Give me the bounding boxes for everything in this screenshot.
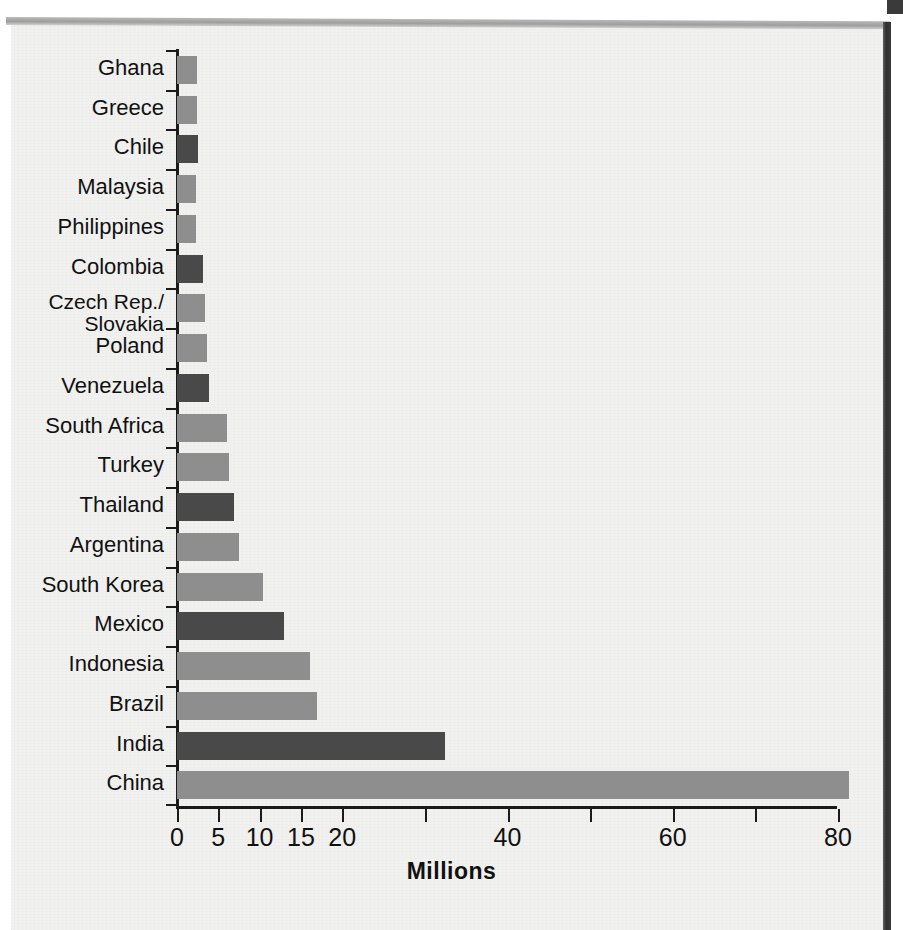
x-axis-tick xyxy=(425,809,427,822)
scanned-chart-page: GhanaGreeceChileMalaysiaPhilippinesColom… xyxy=(0,0,903,930)
bar xyxy=(177,414,227,442)
x-axis-tick-label: 20 xyxy=(328,823,356,852)
bar xyxy=(177,135,198,163)
bar-row xyxy=(177,726,857,766)
x-axis-line xyxy=(176,806,837,809)
bar xyxy=(177,96,197,124)
bar xyxy=(177,652,310,680)
bar xyxy=(177,334,207,362)
y-axis-label: Chile xyxy=(0,136,170,159)
y-axis-label: Venezuela xyxy=(0,375,170,398)
x-axis-tick xyxy=(218,809,220,822)
y-axis-label: Colombia xyxy=(0,256,170,279)
x-axis-tick-label: 60 xyxy=(659,823,687,852)
y-axis-tick xyxy=(166,646,177,648)
bar xyxy=(177,215,196,243)
y-axis-tick xyxy=(166,249,177,251)
plot-area xyxy=(177,50,857,805)
bar xyxy=(177,175,196,203)
x-axis-tick xyxy=(301,809,303,822)
x-axis-tick xyxy=(755,809,757,822)
y-axis-tick xyxy=(166,527,177,529)
horizontal-bar-chart: GhanaGreeceChileMalaysiaPhilippinesColom… xyxy=(0,0,903,930)
x-axis-title: Millions xyxy=(0,858,903,885)
y-axis-label: Brazil xyxy=(0,693,170,716)
y-axis-label: Ghana xyxy=(0,57,170,80)
x-axis-tick-label: 10 xyxy=(246,823,274,852)
bar-row xyxy=(177,686,857,726)
x-axis-tick xyxy=(838,809,840,822)
y-axis-label: China xyxy=(0,772,170,795)
bar xyxy=(177,732,445,760)
x-axis-tick xyxy=(177,809,179,822)
y-axis-tick xyxy=(166,804,177,806)
bar-row xyxy=(177,487,857,527)
y-axis-label: Malaysia xyxy=(0,176,170,199)
bar-row xyxy=(177,90,857,130)
x-axis-tick xyxy=(508,809,510,822)
bar xyxy=(177,493,234,521)
bar-row xyxy=(177,288,857,328)
y-axis-label: Thailand xyxy=(0,494,170,517)
bar-row xyxy=(177,567,857,607)
y-axis-tick xyxy=(166,765,177,767)
y-axis-label: Poland xyxy=(0,335,170,358)
bar-row xyxy=(177,606,857,646)
y-axis-label: South Korea xyxy=(0,574,170,597)
y-axis-label: Philippines xyxy=(0,216,170,239)
bar-row xyxy=(177,646,857,686)
bar xyxy=(177,771,849,799)
bar-row xyxy=(177,447,857,487)
bar-row xyxy=(177,50,857,90)
y-axis-label: South Africa xyxy=(0,415,170,438)
y-axis-label: Greece xyxy=(0,97,170,120)
x-axis-tick xyxy=(260,809,262,822)
y-axis-label: Czech Rep./Slovakia xyxy=(0,291,170,334)
x-axis-tick xyxy=(590,809,592,822)
y-axis-tick xyxy=(166,447,177,449)
bar-row xyxy=(177,328,857,368)
y-axis-label: India xyxy=(0,733,170,756)
bar-row xyxy=(177,249,857,289)
bar-row xyxy=(177,527,857,567)
y-axis-label: Argentina xyxy=(0,534,170,557)
bar xyxy=(177,294,205,322)
bar-row xyxy=(177,765,857,805)
y-axis-tick xyxy=(166,686,177,688)
x-axis-tick-label: 40 xyxy=(494,823,522,852)
bar xyxy=(177,374,209,402)
y-axis-tick xyxy=(166,209,177,211)
bar-row xyxy=(177,209,857,249)
y-axis-tick xyxy=(166,169,177,171)
y-axis-tick xyxy=(166,408,177,410)
x-axis-tick xyxy=(673,809,675,822)
y-axis-tick xyxy=(166,129,177,131)
x-axis-tick-label: 15 xyxy=(287,823,315,852)
bar xyxy=(177,255,203,283)
bar xyxy=(177,56,197,84)
x-axis-tick xyxy=(342,809,344,822)
y-axis-tick xyxy=(166,90,177,92)
bar xyxy=(177,612,284,640)
y-axis-label: Indonesia xyxy=(0,653,170,676)
y-axis-tick xyxy=(166,726,177,728)
bar-row xyxy=(177,129,857,169)
bar xyxy=(177,573,263,601)
y-axis-label: Turkey xyxy=(0,454,170,477)
y-axis-tick xyxy=(166,606,177,608)
y-axis-label: Mexico xyxy=(0,613,170,636)
x-axis-tick-label: 0 xyxy=(170,823,184,852)
y-axis-tick xyxy=(166,567,177,569)
bar xyxy=(177,453,229,481)
x-axis-tick-label: 80 xyxy=(824,823,852,852)
bar-row xyxy=(177,408,857,448)
bar xyxy=(177,533,239,561)
y-axis-tick xyxy=(166,288,177,290)
y-axis-tick xyxy=(166,368,177,370)
bar-row xyxy=(177,169,857,209)
x-axis-tick-label: 5 xyxy=(211,823,225,852)
bar xyxy=(177,692,317,720)
y-axis-tick xyxy=(166,50,177,52)
bar-row xyxy=(177,368,857,408)
y-axis-tick xyxy=(166,487,177,489)
